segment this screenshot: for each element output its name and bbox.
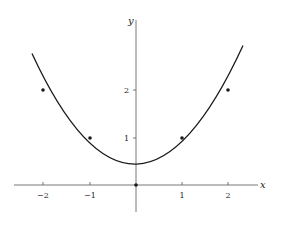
x-tick-label-2: 2 [225,191,230,200]
fitted-curve [32,46,243,165]
data-point [134,183,138,187]
quadratic-fit-chart: −2 −1 1 2 2 1 x y [0,0,283,230]
y-tick-label-2: 2 [124,86,129,95]
y-ticks [133,90,136,138]
data-point [88,136,92,140]
data-point [226,88,230,92]
x-tick-label-neg1: −1 [84,191,96,200]
data-points [41,88,230,187]
data-point [180,136,184,140]
data-point [41,88,45,92]
y-axis-label: y [127,15,134,26]
x-tick-label-neg2: −2 [37,191,49,200]
x-tick-label-1: 1 [179,191,184,200]
y-tick-label-1: 1 [124,134,129,143]
x-axis-label: x [260,179,266,190]
